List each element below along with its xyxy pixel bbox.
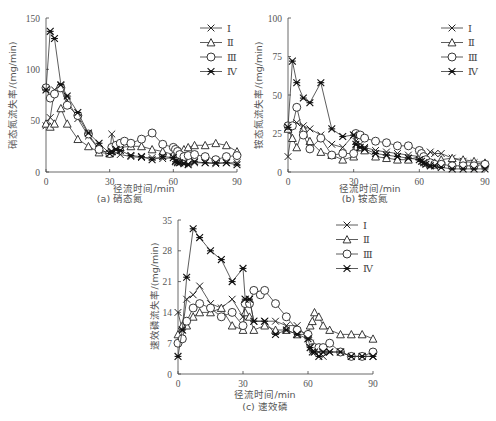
y-tick-label: 150 xyxy=(26,14,41,24)
legend-label: Ⅰ xyxy=(227,23,231,34)
x-tick-label: 90 xyxy=(232,177,242,187)
legend-label: Ⅱ xyxy=(363,234,370,245)
y-tick-label: 14 xyxy=(163,308,173,318)
y-tick-label: 0 xyxy=(167,370,172,380)
legend-label: Ⅲ xyxy=(227,52,237,63)
series-triangle xyxy=(174,304,377,342)
chart-panel-a: 0306090050100150径流时间/min硝态氮流失率/(mg/min)(… xyxy=(7,14,242,205)
y-tick-label: 25 xyxy=(273,129,283,139)
x-tick-label: 0 xyxy=(286,177,291,187)
legend-label: Ⅰ xyxy=(363,220,367,231)
y-tick-label: 100 xyxy=(268,14,283,24)
chart-panel-b: 03060900255075100径流时间/min铵态氮流失率/(mg/min)… xyxy=(253,14,490,205)
legend-label: Ⅲ xyxy=(363,249,373,260)
series-circle xyxy=(174,286,377,360)
y-tick-label: 35 xyxy=(163,216,173,226)
legend-label: Ⅳ xyxy=(468,66,479,77)
legend-label: Ⅳ xyxy=(363,263,374,274)
y-tick-label: 0 xyxy=(277,168,282,178)
y-tick-label: 50 xyxy=(273,91,283,101)
y-tick-label: 100 xyxy=(26,65,41,75)
y-axis-label: 速效磷流失率/(mg/min) xyxy=(149,242,160,349)
x-tick-label: 60 xyxy=(415,177,425,187)
chart-panel-c: 03060900714212835径流时间/min速效磷流失率/(mg/min)… xyxy=(149,216,378,413)
series-circle xyxy=(42,84,241,164)
series-star xyxy=(175,225,377,359)
legend: ⅠⅡⅢⅣ xyxy=(336,220,374,275)
series-star xyxy=(285,58,489,173)
y-axis-label: 硝态氮流失率/(mg/min) xyxy=(7,41,18,148)
legend-label: Ⅳ xyxy=(227,66,238,77)
x-tick-label: 30 xyxy=(238,379,248,389)
x-tick-label: 0 xyxy=(176,379,181,389)
x-tick-label: 90 xyxy=(480,177,490,187)
legend-label: Ⅰ xyxy=(468,23,472,34)
x-axis-label: 径流时间/min xyxy=(234,389,295,400)
series-triangle xyxy=(42,104,241,159)
figure-canvas: 0306090050100150径流时间/min硝态氮流失率/(mg/min)(… xyxy=(0,0,496,421)
y-tick-label: 7 xyxy=(167,339,172,349)
panel-caption: (c) 速效磷 xyxy=(242,401,288,412)
y-tick-label: 50 xyxy=(31,116,41,126)
legend-label: Ⅱ xyxy=(227,37,234,48)
legend-label: Ⅲ xyxy=(468,52,478,63)
panel-caption: (a) 硝态氮 xyxy=(97,193,143,204)
y-tick-label: 0 xyxy=(35,168,40,178)
series-x xyxy=(175,283,377,360)
x-tick-label: 60 xyxy=(303,379,313,389)
panel-caption: (b) 铵态氮 xyxy=(342,193,388,204)
y-axis-label: 铵态氮流失率/(mg/min) xyxy=(253,41,264,148)
legend: ⅠⅡⅢⅣ xyxy=(441,23,479,78)
legend: ⅠⅡⅢⅣ xyxy=(200,23,238,78)
y-tick-label: 75 xyxy=(273,52,283,62)
x-tick-label: 0 xyxy=(44,177,49,187)
x-tick-label: 90 xyxy=(368,379,378,389)
y-tick-label: 21 xyxy=(163,277,173,287)
y-tick-label: 28 xyxy=(163,246,173,256)
legend-label: Ⅱ xyxy=(468,37,475,48)
series-x xyxy=(43,82,241,167)
